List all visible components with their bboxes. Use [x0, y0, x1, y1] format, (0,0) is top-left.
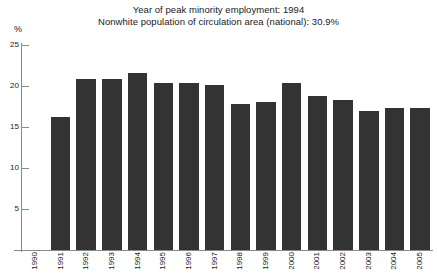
x-axis-label-slot: 1994 [125, 252, 151, 280]
bar [308, 96, 328, 250]
x-axis-tick-label: 1993 [108, 252, 116, 270]
bar-slot [48, 45, 74, 250]
x-axis-label-slot: 1996 [176, 252, 202, 280]
chart-title-block: Year of peak minority employment: 1994 N… [0, 4, 437, 28]
x-axis-label-slot: 2000 [279, 252, 305, 280]
bar-slot [202, 45, 228, 250]
bar [333, 100, 353, 250]
bar [76, 79, 96, 250]
x-axis-tick-label: 1997 [211, 252, 219, 270]
x-axis-tick-label: 2003 [365, 252, 373, 270]
x-axis-tick-label: 1999 [262, 252, 270, 270]
x-axis-tick-label: 1994 [134, 252, 142, 270]
x-axis-label-slot: 2001 [305, 252, 331, 280]
bar [154, 83, 174, 250]
bar [282, 83, 302, 250]
y-axis-tick-label: 5 [1, 205, 19, 213]
x-axis-tick-label: 1992 [82, 252, 90, 270]
x-axis-label-slot: 2003 [356, 252, 382, 280]
bar-slot [150, 45, 176, 250]
bar [385, 108, 405, 250]
bar [102, 79, 122, 250]
bar [410, 108, 430, 250]
x-axis-tick-label: 2005 [416, 252, 424, 270]
bar-slot [228, 45, 254, 250]
bar-series [22, 45, 433, 250]
x-axis-tick-label: 1990 [31, 252, 39, 270]
bar-slot [22, 45, 48, 250]
chart-figure: Year of peak minority employment: 1994 N… [0, 0, 437, 280]
bar-slot [73, 45, 99, 250]
bar-slot [356, 45, 382, 250]
x-axis-tick-label: 2001 [313, 252, 321, 270]
x-axis-tick-label: 1996 [185, 252, 193, 270]
x-axis-label-slot: 1999 [253, 252, 279, 280]
y-axis-unit-label: % [14, 24, 22, 34]
x-axis-tick-label: 1998 [236, 252, 244, 270]
bar [256, 102, 276, 250]
bar [231, 104, 251, 250]
bar-slot [305, 45, 331, 250]
chart-subtitle: Nonwhite population of circulation area … [0, 16, 437, 28]
y-axis-tick-label: 10 [1, 164, 19, 172]
x-axis-tick-label: 1991 [57, 252, 65, 270]
bar-slot [330, 45, 356, 250]
bar [128, 73, 148, 250]
bar-slot [279, 45, 305, 250]
bar-slot [125, 45, 151, 250]
y-axis-tick-label-wrap: 20 [0, 82, 19, 90]
x-axis-label-slot: 1997 [202, 252, 228, 280]
bar [51, 117, 71, 250]
y-axis-tick-label-wrap: 5 [0, 205, 19, 213]
y-axis-tick-label: 25 [1, 41, 19, 49]
bar [179, 83, 199, 250]
x-axis-tick-label: 2004 [390, 252, 398, 270]
x-axis-tick-label: 1995 [159, 252, 167, 270]
x-axis-label-slot: 1990 [22, 252, 48, 280]
y-axis-tick-label-wrap: 10 [0, 164, 19, 172]
x-axis-label-slot: 2005 [407, 252, 433, 280]
x-axis-label-slot: 2004 [382, 252, 408, 280]
y-axis-tick-label: 20 [1, 82, 19, 90]
x-axis-labels: 1990199119921993199419951996199719981999… [22, 252, 433, 280]
bar [205, 85, 225, 250]
y-axis-tick-label-wrap: 25 [0, 41, 19, 49]
y-axis-tick-label: 15 [1, 123, 19, 131]
bar [359, 111, 379, 250]
x-axis-label-slot: 1992 [73, 252, 99, 280]
x-axis-tick-label: 2000 [288, 252, 296, 270]
x-axis-label-slot: 2002 [330, 252, 356, 280]
bar-slot [407, 45, 433, 250]
bar-slot [99, 45, 125, 250]
x-axis-tick-label: 2002 [339, 252, 347, 270]
x-axis-label-slot: 1993 [99, 252, 125, 280]
y-axis-tick-label-wrap: 15 [0, 123, 19, 131]
bar-slot [382, 45, 408, 250]
x-axis-label-slot: 1991 [48, 252, 74, 280]
bar-slot [253, 45, 279, 250]
chart-title: Year of peak minority employment: 1994 [0, 4, 437, 16]
x-axis-label-slot: 1998 [228, 252, 254, 280]
bar-slot [176, 45, 202, 250]
x-axis-label-slot: 1995 [150, 252, 176, 280]
